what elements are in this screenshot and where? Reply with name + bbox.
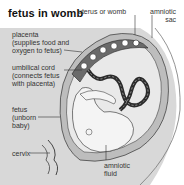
page-title: fetus in womb [8,7,83,19]
label-amniotic-fluid: amniotic fluid [104,162,130,178]
label-amniotic-sac: amniotic sac [150,8,176,24]
label-uterus: uterus or womb [78,8,126,16]
label-placenta: placenta (supplies food and oxygen to fe… [12,31,69,55]
label-umbilical-cord: umbilical cord (connects fetus with plac… [12,64,59,88]
label-fetus: fetus (unborn baby) [12,106,36,130]
label-cervix: cervix [12,150,30,158]
